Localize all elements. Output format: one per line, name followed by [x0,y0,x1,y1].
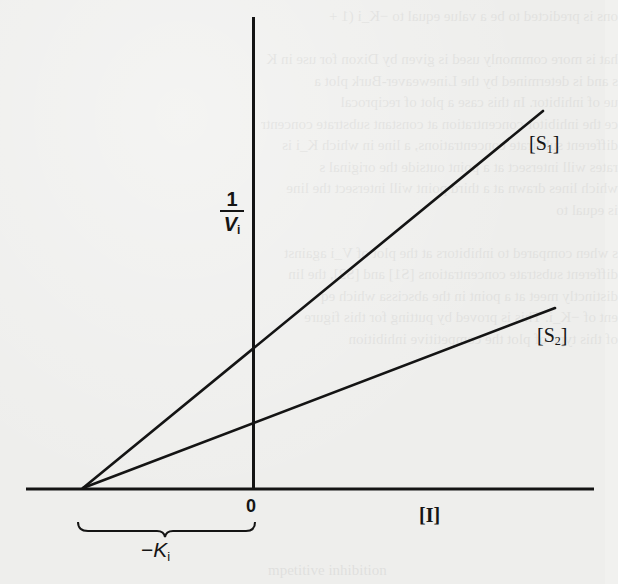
ki-intercept-label: −Ki [141,538,170,564]
origin-label: 0 [246,496,256,517]
ki-subscript: i [167,549,170,564]
series-label-s1: [S1] [529,132,559,157]
ki-brace [78,522,255,537]
ki-symbol: K [153,538,167,561]
y-label-denominator: Vi [218,214,246,240]
series-symbol: S [536,132,547,154]
y-label-numerator: 1 [218,189,246,209]
y-label-subscript: i [237,223,240,237]
line-s2 [83,308,555,488]
bracket-open: [ [529,132,536,154]
bracket-close: ] [553,132,560,154]
x-axis-label: [I] [419,504,440,527]
series-label-s2: [S2] [537,324,567,349]
line-s1 [83,111,543,488]
y-label-fraction-bar [220,210,244,212]
bracket-open: [ [537,324,544,346]
minus-sign: − [141,538,153,561]
bracket-close: ] [561,324,568,346]
y-label-symbol: V [224,213,237,235]
series-symbol: S [544,324,555,346]
y-axis-label: 1 Vi [218,189,246,240]
